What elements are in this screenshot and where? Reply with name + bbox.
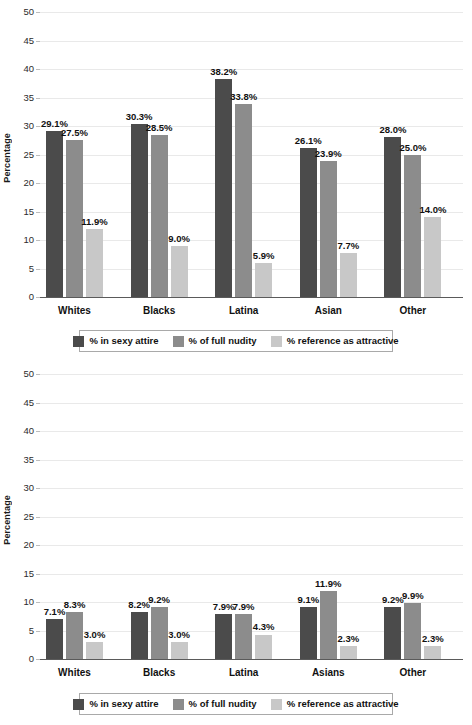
bar-value-label: 2.3% (416, 634, 450, 644)
bar (255, 263, 272, 297)
legend-label: % of full nudity (189, 336, 257, 346)
bar-value-label: 11.9% (311, 579, 345, 589)
legend-label: % of full nudity (189, 699, 257, 709)
chart-top: Percentage 05101520253035404550 29.1%27.… (0, 0, 472, 362)
bar-value-label: 27.5% (58, 128, 92, 138)
y-tick-label: 5 (0, 626, 34, 636)
y-tick-label: 35 (0, 93, 34, 103)
bar (235, 614, 252, 659)
legend-item[interactable]: % reference as attractive (271, 699, 399, 710)
bar (86, 642, 103, 659)
bar-value-label: 4.3% (247, 622, 281, 632)
bar-value-label: 9.0% (162, 234, 196, 244)
bar (131, 124, 148, 297)
bar-value-label: 38.2% (207, 67, 241, 77)
y-tickmark (36, 659, 40, 660)
legend-label: % in sexy attire (89, 336, 158, 346)
bar (151, 135, 168, 297)
plot-area-top: Percentage 05101520253035404550 29.1%27.… (0, 0, 472, 327)
y-tick-label: 25 (0, 512, 34, 522)
bar-value-label: 26.1% (291, 136, 325, 146)
bar (404, 155, 421, 298)
bars-top: 29.1%27.5%11.9%Whites30.3%28.5%9.0%Black… (40, 12, 463, 297)
bar (340, 646, 357, 659)
y-tick-label: 45 (0, 36, 34, 46)
y-tick-labels-top: 05101520253035404550 (0, 12, 34, 297)
y-tickmark (36, 297, 40, 298)
bar (340, 253, 357, 297)
x-category-label: Whites (35, 306, 115, 316)
bars-bottom: 7.1%8.3%3.0%Whites8.2%9.2%3.0%Blacks7.9%… (40, 374, 463, 659)
bar-value-label: 7.9% (227, 602, 261, 612)
bar (384, 607, 401, 659)
bar (424, 646, 441, 659)
y-tick-label: 30 (0, 483, 34, 493)
bar (131, 612, 148, 659)
bar-value-label: 2.3% (331, 634, 365, 644)
legend-item[interactable]: % in sexy attire (73, 336, 158, 347)
bar (300, 148, 317, 297)
bar (404, 603, 421, 659)
bar-value-label: 28.0% (376, 125, 410, 135)
bar-value-label: 9.2% (142, 595, 176, 605)
legend-swatch-icon (73, 699, 84, 710)
y-tick-labels-bottom: 05101520253035404550 (0, 374, 34, 659)
x-axis-line (40, 659, 463, 660)
legend-label: % reference as attractive (287, 699, 399, 709)
legend-swatch-icon (271, 336, 282, 347)
x-category-label: Other (373, 668, 453, 678)
legend-swatch-icon (271, 699, 282, 710)
y-tick-label: 35 (0, 455, 34, 465)
bar (86, 229, 103, 297)
bar (300, 607, 317, 659)
bar-value-label: 7.7% (331, 241, 365, 251)
y-tick-label: 15 (0, 569, 34, 579)
y-tick-label: 50 (0, 369, 34, 379)
bar-value-label: 9.9% (396, 591, 430, 601)
bar (171, 246, 188, 297)
y-tick-label: 10 (0, 597, 34, 607)
bar (320, 591, 337, 659)
y-tick-label: 0 (0, 292, 34, 302)
legend-bottom: % in sexy attire% of full nudity% refere… (79, 693, 393, 715)
legend-item[interactable]: % of full nudity (173, 336, 257, 347)
bar-value-label: 3.0% (78, 630, 112, 640)
bar-value-label: 30.3% (122, 112, 156, 122)
legend-swatch-icon (173, 336, 184, 347)
x-axis-line (40, 297, 463, 298)
y-tick-label: 30 (0, 121, 34, 131)
y-tick-label: 0 (0, 654, 34, 664)
bar-value-label: 14.0% (416, 205, 450, 215)
bar-value-label: 8.3% (58, 600, 92, 610)
legend-top: % in sexy attire% of full nudity% refere… (79, 330, 393, 352)
x-category-label: Latina (204, 668, 284, 678)
bar (46, 619, 63, 659)
bar-value-label: 33.8% (227, 92, 261, 102)
x-category-label: Blacks (119, 306, 199, 316)
y-tick-label: 5 (0, 264, 34, 274)
legend-label: % in sexy attire (89, 699, 158, 709)
bar (46, 131, 63, 297)
legend-label: % reference as attractive (287, 336, 399, 346)
legend-swatch-icon (173, 699, 184, 710)
legend-item[interactable]: % of full nudity (173, 699, 257, 710)
bar (215, 79, 232, 297)
bar (235, 104, 252, 297)
bar (255, 635, 272, 660)
bar-value-label: 23.9% (311, 149, 345, 159)
x-category-label: Whites (35, 668, 115, 678)
bar (215, 614, 232, 659)
x-category-label: Blacks (119, 668, 199, 678)
x-category-label: Asians (288, 668, 368, 678)
bar-value-label: 11.9% (78, 217, 112, 227)
y-tick-label: 20 (0, 540, 34, 550)
legend-swatch-icon (73, 336, 84, 347)
bar (424, 217, 441, 297)
legend-item[interactable]: % in sexy attire (73, 699, 158, 710)
x-category-label: Other (373, 306, 453, 316)
y-tick-label: 40 (0, 426, 34, 436)
y-tick-label: 15 (0, 207, 34, 217)
bar (320, 161, 337, 297)
legend-item[interactable]: % reference as attractive (271, 336, 399, 347)
y-tick-label: 10 (0, 235, 34, 245)
